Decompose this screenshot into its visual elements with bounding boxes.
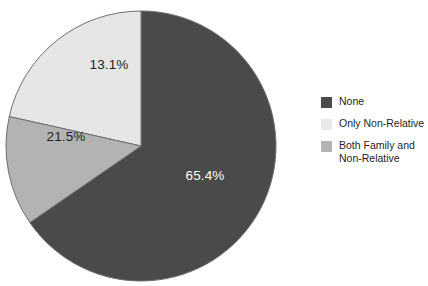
pie-slices (6, 11, 276, 281)
legend-swatch-icon-none (321, 97, 332, 108)
legend-label-none: None (339, 95, 364, 108)
legend: None Only Non-Relative Both Family and N… (321, 95, 428, 164)
pie-svg: 65.4% 21.5% 13.1% (0, 0, 300, 286)
legend-label-only-non-relative: Only Non-Relative (339, 117, 424, 130)
slice-label-none: 65.4% (186, 168, 225, 183)
pie-plot-area: 65.4% 21.5% 13.1% (0, 0, 300, 286)
legend-item-both-family-and-non-relative[interactable]: Both Family and Non-Relative (321, 139, 428, 164)
legend-item-none[interactable]: None (321, 95, 428, 108)
pie-chart-figure: 65.4% 21.5% 13.1% None Only Non-Relative… (0, 0, 428, 286)
slice-label-only-non-relative: 21.5% (47, 129, 86, 144)
slice-label-both-family-and-non-relative: 13.1% (90, 57, 129, 72)
legend-item-only-non-relative[interactable]: Only Non-Relative (321, 117, 428, 130)
legend-swatch-icon-only-non-relative (321, 119, 332, 130)
legend-label-both-family-and-non-relative: Both Family and Non-Relative (339, 139, 415, 164)
legend-swatch-icon-both-family-and-non-relative (321, 141, 332, 152)
